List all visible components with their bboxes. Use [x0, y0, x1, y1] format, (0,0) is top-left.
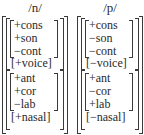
group2-bracket-right — [60, 70, 64, 130]
features-bracket-right — [54, 20, 58, 58]
segment-label: /n/ — [2, 1, 68, 15]
features2-bracket-right — [54, 73, 58, 111]
features2-bracket-right — [129, 73, 133, 111]
feature-nasal: [−nasal] — [86, 111, 125, 124]
feature-nasal: [+nasal] — [11, 111, 50, 124]
feature-voice: [+voice] — [11, 57, 52, 70]
segment-label: /p/ — [77, 1, 143, 15]
group1-bracket-right — [60, 18, 64, 70]
features-bracket-right — [129, 20, 133, 58]
feature-voice: [−voice] — [86, 57, 127, 70]
feature-matrix-p: /p/ +cons −son −cont [−voice] +ant −cor … — [77, 0, 143, 135]
feature-matrix-n: /n/ +cons +son −cont [+voice] +ant +cor … — [2, 0, 68, 135]
group2-bracket-right — [135, 70, 139, 130]
group1-bracket-right — [135, 18, 139, 70]
outer-bracket-right — [64, 16, 68, 134]
outer-bracket-right — [139, 16, 143, 134]
